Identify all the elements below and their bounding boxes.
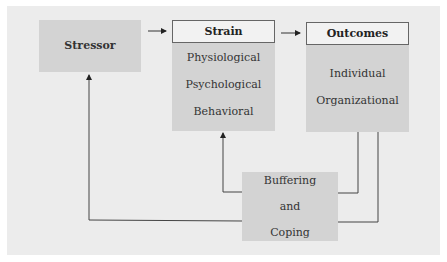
arrow-buffer-to-strain: [223, 133, 242, 192]
line-outcomes-to-buffer-1: [338, 132, 358, 193]
connector-lines: [0, 0, 447, 262]
arrow-buffer-to-stressor: [89, 75, 242, 221]
